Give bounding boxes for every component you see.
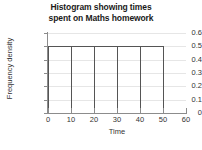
- y-axis-title: Frequency density: [5, 31, 14, 107]
- histogram-bar: [117, 46, 141, 114]
- x-tick-10: [71, 108, 72, 113]
- y-tick-label: 0.5: [160, 42, 202, 50]
- chart-title: Histogram showing times spent on Maths h…: [0, 2, 202, 23]
- y-tick-0.3: [44, 73, 48, 74]
- x-tick-40: [140, 108, 141, 113]
- x-tick-50: [163, 108, 164, 113]
- y-tick-label: 0.4: [160, 56, 202, 64]
- y-tick-label: 0.2: [160, 82, 202, 90]
- chart-figure: Histogram showing times spent on Maths h…: [0, 0, 202, 150]
- y-tick-0: [44, 113, 48, 114]
- x-tick-label: 10: [60, 116, 82, 124]
- histogram-bar: [48, 46, 72, 114]
- x-axis-title: Time: [48, 127, 186, 136]
- x-tick-label: 50: [152, 116, 174, 124]
- y-tick-label: 0.6: [160, 29, 202, 37]
- x-tick-label: 60: [175, 116, 197, 124]
- y-tick-label: 0.1: [160, 96, 202, 104]
- y-tick-0.4: [44, 60, 48, 61]
- y-tick-0.6: [44, 33, 48, 34]
- y-tick-0.1: [44, 100, 48, 101]
- x-tick-label: 30: [106, 116, 128, 124]
- x-tick-label: 0: [37, 116, 59, 124]
- histogram-bar: [71, 46, 95, 114]
- chart-title-line-1: Histogram showing times: [0, 2, 202, 13]
- chart-title-line-2: spent on Maths homework: [0, 13, 202, 24]
- y-tick-0.2: [44, 86, 48, 87]
- x-tick-label: 20: [83, 116, 105, 124]
- x-tick-0: [48, 108, 49, 113]
- x-tick-60: [186, 108, 187, 113]
- x-tick-label: 40: [129, 116, 151, 124]
- histogram-bar: [94, 46, 118, 114]
- x-tick-20: [94, 108, 95, 113]
- y-tick-0.5: [44, 46, 48, 47]
- x-tick-30: [117, 108, 118, 113]
- y-tick-label: 0.3: [160, 69, 202, 77]
